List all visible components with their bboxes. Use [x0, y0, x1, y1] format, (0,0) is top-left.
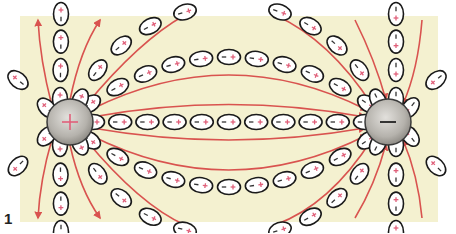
- polarized-molecule: [136, 115, 159, 130]
- polarized-molecule: [109, 115, 132, 130]
- polarized-molecule: [299, 115, 322, 130]
- molecule-outline: [190, 115, 213, 130]
- polarized-molecule: [190, 115, 213, 130]
- molecule-minus-sign: [194, 184, 198, 185]
- polarized-molecule: [53, 163, 68, 186]
- polarized-molecule: [53, 30, 68, 53]
- polarized-molecule: [53, 58, 68, 81]
- molecule-outline: [218, 50, 241, 65]
- molecule-outline: [53, 163, 68, 186]
- dipole-field-diagram: [0, 0, 456, 233]
- polarized-molecule: [389, 59, 404, 82]
- molecule-outline: [54, 3, 69, 26]
- molecule-outline: [389, 30, 404, 53]
- molecule-minus-sign: [250, 185, 254, 186]
- molecule-outline: [389, 192, 404, 215]
- molecule-outline: [109, 115, 132, 130]
- molecule-outline: [389, 163, 404, 186]
- molecule-outline: [389, 3, 404, 26]
- polarized-molecule: [272, 115, 295, 130]
- polarized-molecule: [53, 192, 68, 215]
- figure-number: 1: [4, 210, 12, 227]
- molecule-outline: [389, 59, 404, 82]
- polarized-molecule: [389, 3, 404, 26]
- polarized-molecule: [218, 115, 241, 130]
- polarized-molecule: [389, 221, 404, 234]
- polarized-molecule: [389, 192, 404, 215]
- molecule-outline: [326, 115, 349, 130]
- molecule-minus-sign: [194, 59, 198, 60]
- positive-charge: [47, 99, 93, 145]
- molecule-outline: [53, 30, 68, 53]
- polarized-molecule: [218, 50, 241, 65]
- polarized-molecule: [389, 30, 404, 53]
- molecule-outline: [245, 115, 268, 130]
- polarized-molecule: [54, 3, 69, 26]
- molecule-outline: [218, 115, 241, 130]
- molecule-outline: [53, 58, 68, 81]
- negative-charge: [365, 99, 411, 145]
- polarized-molecule: [245, 115, 268, 130]
- molecule-outline: [299, 115, 322, 130]
- molecule-outline: [218, 180, 241, 195]
- molecule-outline: [136, 115, 159, 130]
- molecule-outline: [53, 192, 68, 215]
- polarized-molecule: [163, 115, 186, 130]
- molecule-outline: [163, 115, 186, 130]
- polarized-molecule: [389, 163, 404, 186]
- molecule-minus-sign: [250, 58, 254, 59]
- polarized-molecule: [218, 180, 241, 195]
- molecule-outline: [272, 115, 295, 130]
- polarized-molecule: [54, 221, 69, 234]
- polarized-molecule: [326, 115, 349, 130]
